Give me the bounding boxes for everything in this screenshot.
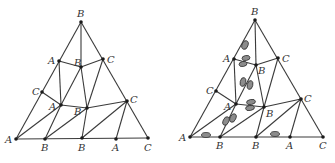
edge: [264, 58, 278, 107]
vertex-label-b: B: [250, 6, 258, 17]
vertex-dot: [114, 137, 118, 141]
vertex-label-b: B: [40, 142, 48, 153]
vertex-label-c: C: [32, 86, 40, 97]
left-edges: [16, 22, 148, 139]
vertex-label-a: A: [111, 142, 119, 153]
vertex-label-c: C: [144, 142, 152, 153]
edge: [82, 101, 127, 138]
vertex-dot: [254, 135, 258, 139]
vertex-label-b: B: [265, 108, 273, 119]
fully-labeled-mark: [239, 61, 248, 67]
vertex-dot: [43, 137, 47, 141]
vertex-label-c: C: [107, 54, 115, 65]
edge: [116, 101, 127, 139]
edge: [81, 67, 87, 108]
fully-labeled-mark: [229, 113, 238, 124]
fully-labeled-mark: [241, 40, 250, 51]
edge: [255, 20, 256, 65]
vertex-dot: [321, 135, 325, 139]
vertex-label-b: B: [215, 140, 223, 151]
edge: [87, 101, 127, 108]
vertex-label-b: B: [73, 106, 81, 117]
vertex-label-a: A: [4, 134, 12, 145]
vertex-label-b: B: [257, 65, 265, 76]
fully-labeled-mark: [246, 99, 256, 105]
vertex-label-a: A: [47, 55, 55, 66]
fully-labeled-mark: [202, 133, 211, 138]
vertex-label-c: C: [130, 94, 138, 105]
vertex-dot: [218, 135, 222, 139]
vertex-label-a: A: [48, 101, 56, 112]
vertex-dot: [40, 90, 44, 94]
edge: [87, 59, 103, 108]
edge: [81, 22, 148, 138]
vertex-dot: [59, 103, 63, 107]
fully-labeled-mark: [271, 132, 280, 137]
vertex-label-b: B: [77, 142, 85, 153]
edge: [256, 99, 301, 137]
vertex-dot: [79, 20, 83, 24]
vertex-label-a: A: [285, 140, 293, 151]
vertex-label-b: B: [76, 8, 84, 19]
edge: [255, 20, 323, 137]
vertex-dot: [214, 89, 218, 93]
right-edges: [190, 20, 323, 137]
vertex-label-a: A: [223, 101, 231, 112]
fully-labeled-mark: [245, 105, 255, 111]
fully-labeled-mark: [242, 55, 251, 61]
vertex-label-c: C: [206, 85, 214, 96]
vertex-label-c: C: [282, 53, 290, 64]
vertex-dot: [188, 135, 192, 139]
vertex-dot: [234, 102, 238, 106]
edge: [290, 99, 301, 137]
vertex-label-c: C: [319, 140, 327, 151]
edge: [59, 61, 61, 105]
left-triangulated-triangle: BABCCABCABBAC: [4, 8, 152, 153]
vertex-label-b: B: [251, 140, 259, 151]
vertex-label-b: B: [73, 57, 81, 68]
vertex-dot: [276, 56, 280, 60]
vertex-dot: [253, 18, 257, 22]
vertex-dot: [80, 136, 84, 140]
edge: [82, 108, 87, 138]
vertex-label-a: A: [222, 53, 230, 64]
vertex-dot: [85, 106, 89, 110]
vertex-label-c: C: [304, 93, 312, 104]
vertex-dot: [232, 57, 236, 61]
right-triangulated-triangle-with-marks: BABCCABCABBAC: [178, 6, 327, 151]
vertex-dot: [125, 99, 129, 103]
vertex-dot: [146, 136, 150, 140]
sperner-diagram: BABCCABCABBAC BABCCABCABBAC: [0, 0, 335, 163]
vertex-dot: [299, 97, 303, 101]
vertex-dot: [101, 57, 105, 61]
fully-labeled-mark: [222, 116, 231, 127]
vertex-dot: [288, 135, 292, 139]
edge: [16, 22, 81, 139]
vertex-dot: [57, 59, 61, 63]
edge: [81, 59, 103, 67]
vertex-label-a: A: [178, 132, 186, 143]
edge: [256, 58, 278, 65]
edge: [234, 59, 236, 104]
vertex-dot: [14, 137, 18, 141]
edge: [61, 67, 81, 105]
